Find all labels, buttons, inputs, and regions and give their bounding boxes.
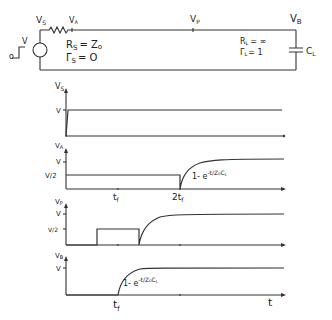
vs-ylabel: VS (55, 82, 64, 92)
vp-level-half: V/2 (48, 226, 58, 233)
node-va-label: VA (69, 16, 78, 25)
step-low-label: o (9, 52, 14, 61)
voltage-source-icon (33, 43, 47, 57)
va-ylabel: VA (55, 142, 64, 150)
gamma-s-equation: ΓS= O (66, 52, 98, 65)
node-vp-label: VP (190, 14, 200, 25)
plot-vs: VS V (55, 82, 285, 137)
rl-equation: RL= ∞ (240, 37, 266, 46)
circuit: o V VS VA VP VB RS= Zo ΓS= O RL= ∞ ΓL= 1… (9, 13, 316, 70)
va-tick-tf: tf (113, 192, 120, 203)
plot-va: VA V V/2 tf 2tf 1- e-t/Z₀CL (45, 142, 286, 203)
va-tick-2tf: 2tf (172, 192, 184, 203)
plot-vb: VB V tf t 1- e-t/Z₀CL (55, 252, 286, 313)
vp-ylabel: VP (55, 198, 63, 206)
vp-level-v: V (56, 210, 61, 218)
rs-equation: RS= Zo (66, 39, 102, 52)
vb-xlabel: t (268, 296, 273, 309)
resistor-and-top-wire (40, 27, 296, 33)
step-high-label: V (22, 37, 28, 46)
vs-level-v: V (56, 107, 61, 115)
capacitor-icon (289, 30, 303, 70)
va-level-v: V (56, 158, 61, 166)
node-vb-label: VB (290, 13, 302, 26)
vb-waveform (66, 268, 284, 295)
va-level-half: V/2 (45, 172, 57, 180)
gamma-l-equation: ΓL= 1 (240, 48, 263, 57)
step-input-icon: o V (9, 37, 28, 61)
transmission-line-diagram: o V VS VA VP VB RS= Zo ΓS= O RL= ∞ ΓL= 1… (0, 0, 332, 320)
vb-level-v: V (56, 265, 61, 273)
cap-label: CL (306, 46, 316, 57)
node-vs-label: VS (36, 15, 46, 26)
plot-vp: VP V V/2 (48, 198, 286, 247)
vp-waveform (66, 214, 284, 245)
vb-ylabel: VB (55, 252, 64, 260)
va-waveform (66, 159, 284, 189)
vb-tick-tf: tf (113, 298, 120, 313)
vb-annotation: 1- e-t/Z₀CL (123, 276, 159, 288)
va-annotation: 1- e-t/Z₀CL (192, 169, 228, 181)
vs-waveform (66, 110, 282, 136)
